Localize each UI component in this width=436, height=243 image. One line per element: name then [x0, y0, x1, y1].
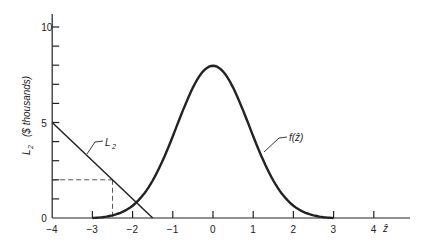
x-tick-label: 4 [371, 224, 377, 235]
svg-text:($ thousands): ($ thousands) [21, 76, 32, 137]
x-tick-label: 3 [331, 224, 337, 235]
y-axis-label: L 2 ($ thousands) [21, 76, 34, 155]
x-tick-label: −4 [46, 224, 58, 235]
curve-label: f(ẑ) [264, 132, 303, 152]
dashed-guides [52, 180, 112, 218]
axes [52, 14, 410, 218]
x-axis-label: ẑ [382, 223, 388, 234]
svg-text:2: 2 [111, 143, 116, 150]
x-tick-label: 2 [290, 224, 296, 235]
x-tick-label: 0 [210, 224, 216, 235]
x-tick-label: −1 [167, 224, 179, 235]
svg-text:2: 2 [27, 145, 34, 150]
x-tick-label: 1 [250, 224, 256, 235]
x-tick-label: −3 [86, 224, 98, 235]
svg-text:L: L [21, 149, 32, 155]
chart: 0510−4−3−2−101234 L 2 f(ẑ) L 2 ($ thousa… [0, 0, 436, 243]
x-tick-label: −2 [127, 224, 139, 235]
y-tick-label: 5 [41, 118, 47, 129]
l2-label: L 2 [87, 137, 116, 154]
y-tick-label: 10 [41, 22, 53, 33]
y-tick-label: 0 [41, 213, 47, 224]
tick-labels: 0510−4−3−2−101234 [41, 22, 377, 235]
svg-text:f(ẑ): f(ẑ) [289, 132, 303, 143]
svg-text:L: L [105, 137, 111, 148]
l2-line [52, 123, 153, 219]
